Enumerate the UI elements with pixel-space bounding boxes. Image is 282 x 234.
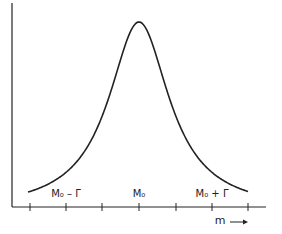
x-axis-label: m <box>215 214 226 227</box>
tick-label-plus-gamma: M₀ + Γ <box>196 188 229 199</box>
tick-label-minus-gamma: M₀ – Γ <box>51 188 81 199</box>
resonance-curve <box>28 22 248 192</box>
tick-label-m0: M₀ <box>133 188 146 199</box>
arrow-icon <box>230 220 248 225</box>
